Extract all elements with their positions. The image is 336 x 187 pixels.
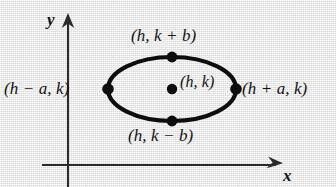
y-axis-label: y xyxy=(47,11,55,28)
x-axis-arrowhead xyxy=(267,157,284,169)
label-left-vertex: (h − a, k) xyxy=(4,80,69,97)
point-right-vertex xyxy=(230,83,242,95)
label-top-covertex: (h, k + b) xyxy=(131,27,196,44)
point-bottom-covertex xyxy=(167,116,178,127)
point-left-vertex xyxy=(102,83,114,95)
label-bottom-covertex: (h, k − b) xyxy=(128,127,193,144)
label-right-vertex: (h + a, k) xyxy=(242,80,307,97)
x-axis-label: x xyxy=(283,167,292,184)
ellipse-diagram-figure: (h, k + b) (h − a, k) (h, k) (h + a, k) … xyxy=(0,0,336,187)
point-center xyxy=(167,84,177,94)
point-top-covertex xyxy=(167,52,178,63)
label-center: (h, k) xyxy=(180,74,214,90)
